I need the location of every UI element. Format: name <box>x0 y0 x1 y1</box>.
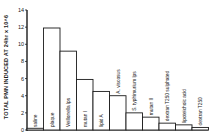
bar-group: lipoteichoic acid <box>176 89 193 130</box>
y-tick-label: 12 <box>18 24 24 30</box>
bar-label: plaque <box>50 112 55 127</box>
bar <box>159 123 176 130</box>
bar-group: mutan II <box>143 98 160 130</box>
bar <box>27 128 44 130</box>
bar-chart: 02468101214 salineplaqueVeillonella lpsm… <box>0 0 221 137</box>
bar-label: lipoteichoic acid <box>182 89 187 123</box>
bar <box>126 113 143 130</box>
bar-label: A. viscosus <box>116 69 121 94</box>
bar-label: dextran T250 sulphated <box>165 70 170 121</box>
bar-label: lipid A <box>99 113 104 127</box>
bar-group: mutan I <box>77 79 94 130</box>
bar-label: dextran T250 <box>198 97 203 126</box>
bar-label: mutan II <box>149 98 154 115</box>
bar-label: S. typhimurium lps <box>132 71 137 111</box>
bar-label: saline <box>33 114 38 127</box>
y-tick-label: 4 <box>21 93 24 99</box>
y-tick-label: 0 <box>21 127 24 133</box>
bar-group: dextran T250 sulphated <box>159 70 176 130</box>
bars: salineplaqueVeillonella lpsmutan Ilipid … <box>27 28 209 130</box>
bar <box>110 96 127 130</box>
y-tick-label: 10 <box>18 41 24 47</box>
bar <box>192 127 209 130</box>
y-tick-label: 2 <box>21 110 24 116</box>
bar-group: A. viscosus <box>110 69 127 130</box>
bar-group: dextran T250 <box>192 97 209 130</box>
bar-group: Veillonella lps <box>60 51 77 130</box>
bar-label: mutan I <box>83 111 88 127</box>
bar-group: plaque <box>44 28 61 130</box>
bar-group: S. typhimurium lps <box>126 71 143 130</box>
bar-label: Veillonella lps <box>66 97 71 127</box>
bar <box>143 117 160 130</box>
bar <box>176 125 193 130</box>
y-tick-label: 6 <box>21 76 24 82</box>
bar-group: lipid A <box>93 91 110 130</box>
y-tick-label: 14 <box>18 7 24 13</box>
y-tick-label: 8 <box>21 58 24 64</box>
bar-group: saline <box>27 114 44 130</box>
